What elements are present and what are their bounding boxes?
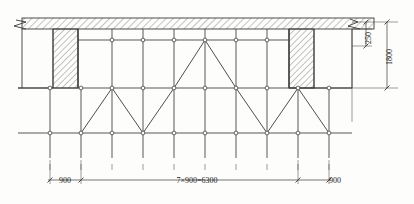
joint-node-13 <box>234 131 238 135</box>
joint-node-3 <box>79 131 83 135</box>
joint-node-21 <box>141 38 145 42</box>
brace-5 <box>236 88 267 133</box>
brace-2 <box>143 88 174 133</box>
brace-6 <box>267 88 298 133</box>
brace-3 <box>174 40 205 88</box>
joint-node-23 <box>203 38 207 42</box>
dimension-label-left-900: 900 <box>59 176 71 185</box>
joint-node-16 <box>296 86 300 90</box>
brace-4 <box>205 40 236 88</box>
joint-node-22 <box>172 38 176 42</box>
joint-node-1 <box>48 131 52 135</box>
brace-7 <box>298 88 329 133</box>
hatched-concrete-regions <box>22 18 374 88</box>
joint-node-10 <box>203 86 207 90</box>
joint-node-2 <box>79 86 83 90</box>
joint-node-17 <box>296 131 300 135</box>
drawing-canvas: 900 7×900=6300 900 250 1800 <box>0 0 414 204</box>
slab-band-hatch <box>22 18 374 29</box>
joint-node-19 <box>327 131 331 135</box>
brace-0 <box>81 88 112 133</box>
joint-node-12 <box>234 86 238 90</box>
joint-node-7 <box>141 131 145 135</box>
joint-node-20 <box>110 38 114 42</box>
joint-node-11 <box>203 131 207 135</box>
right-pier-hatch <box>289 29 314 88</box>
joint-node-14 <box>265 86 269 90</box>
elevation-drawing: 900 7×900=6300 900 250 1800 <box>0 0 414 204</box>
dimension-label-1800: 1800 <box>385 49 394 65</box>
joint-node-18 <box>327 86 331 90</box>
dimension-lines <box>48 20 399 185</box>
dimension-label-main-span: 7×900=6300 <box>176 176 217 185</box>
brace-1 <box>112 88 143 133</box>
joint-node-15 <box>265 131 269 135</box>
joint-node-24 <box>234 38 238 42</box>
left-pier-hatch <box>53 29 78 88</box>
joint-node-5 <box>110 131 114 135</box>
dimension-label-right-900: 900 <box>329 176 341 185</box>
joint-node-25 <box>265 38 269 42</box>
joint-node-6 <box>141 86 145 90</box>
joint-node-4 <box>110 86 114 90</box>
joint-nodes <box>48 38 331 135</box>
dimension-label-250: 250 <box>364 32 373 44</box>
joint-node-8 <box>172 86 176 90</box>
joint-node-0 <box>48 86 52 90</box>
joint-node-9 <box>172 131 176 135</box>
vertical-standards <box>50 29 329 158</box>
